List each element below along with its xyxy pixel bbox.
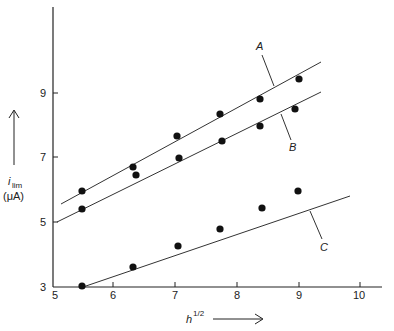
chart: 9 7 5 3 5 6 7 8 9 10 A B C xyxy=(0,0,394,331)
svg-text:1/2: 1/2 xyxy=(193,309,205,318)
svg-text:i: i xyxy=(8,175,11,187)
fit-line-c xyxy=(83,196,350,287)
series-label-a: A xyxy=(255,40,263,52)
leader-c xyxy=(310,211,322,239)
series-label-b: B xyxy=(289,141,296,153)
fit-line-b xyxy=(57,92,321,222)
x-tick-7: 7 xyxy=(172,289,178,301)
leader-b xyxy=(281,114,291,140)
x-tick-9: 9 xyxy=(296,289,302,301)
y-tick-3: 3 xyxy=(40,281,46,293)
x-tick-10: 10 xyxy=(353,289,365,301)
series-a-points xyxy=(78,75,302,194)
y-axis-label: i lim (μA) xyxy=(3,110,24,202)
x-axis-label: h 1/2 xyxy=(186,309,263,325)
fit-line-a xyxy=(61,62,321,204)
leader-a xyxy=(262,55,274,86)
svg-text:(μA): (μA) xyxy=(3,190,24,202)
series-b-points xyxy=(78,105,298,212)
x-tick-6: 6 xyxy=(110,289,116,301)
y-tick-7: 7 xyxy=(40,151,46,163)
x-ticks: 5 6 7 8 9 10 xyxy=(52,282,365,301)
y-ticks: 9 7 5 3 xyxy=(40,87,58,293)
x-tick-8: 8 xyxy=(234,289,240,301)
svg-text:h: h xyxy=(186,313,192,325)
y-tick-5: 5 xyxy=(40,216,46,228)
series-label-c: C xyxy=(320,241,328,253)
series-c-points xyxy=(78,187,301,289)
svg-text:lim: lim xyxy=(12,181,23,190)
x-tick-5: 5 xyxy=(52,289,58,301)
y-tick-9: 9 xyxy=(40,87,46,99)
